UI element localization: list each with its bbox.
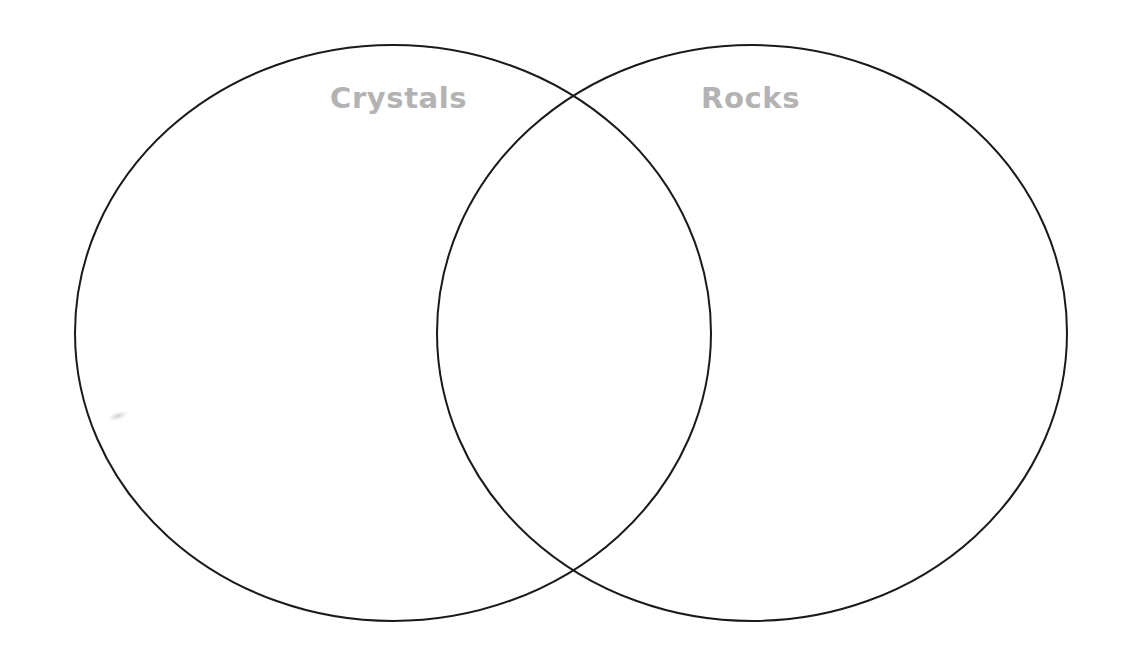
venn-circle-left[interactable] bbox=[75, 45, 711, 621]
venn-circle-right[interactable] bbox=[437, 45, 1067, 621]
venn-label-left: Crystals bbox=[330, 84, 467, 113]
venn-diagram-worksheet: Crystals Rocks bbox=[0, 0, 1126, 661]
venn-label-right: Rocks bbox=[701, 84, 800, 113]
venn-diagram-canvas bbox=[0, 0, 1126, 661]
